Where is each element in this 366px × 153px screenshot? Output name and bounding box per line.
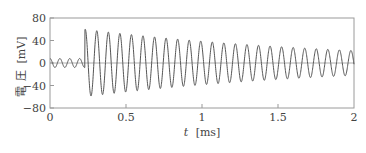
y-tick-label: 80 [32,12,46,25]
x-axis-variable: t [184,126,189,139]
x-tick-label: 0.5 [117,111,135,124]
x-tick-label: 0 [47,111,54,124]
x-tick-label: 1 [199,111,206,124]
voltage-chart: 80 40 0 −40 −80 0 0.5 1 1.5 2 t [ms] 電 圧… [0,0,366,153]
y-axis-label-char: 電 [15,86,28,97]
x-tick-label: 1.5 [269,111,287,124]
y-tick-label: −80 [23,102,46,115]
y-axis-label-char: 圧 [15,70,28,81]
x-axis-label: t [ms] [184,126,221,139]
y-tick-label: 40 [32,35,46,48]
x-axis: 0 0.5 1 1.5 2 [47,104,358,124]
y-axis-label: 電 圧 [mV] [15,37,28,97]
y-tick-label: 0 [39,57,46,70]
x-tick-label: 2 [351,111,358,124]
x-axis-unit: [ms] [196,126,221,139]
y-axis-unit: [mV] [15,37,28,64]
